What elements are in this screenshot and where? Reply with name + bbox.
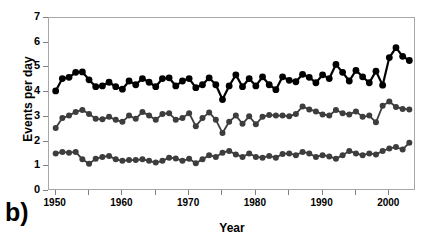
data-point [73,149,79,155]
data-point [246,150,252,156]
data-point [186,156,192,162]
data-point [273,155,279,161]
data-point [79,68,86,75]
data-point [219,96,226,103]
data-point [313,154,319,160]
data-point [212,81,219,88]
data-point [313,108,319,114]
x-tick-mark [221,190,222,195]
data-point [199,81,206,88]
data-point [273,113,279,119]
data-point [326,113,332,119]
chart-figure: Events per day 01234567 1950196019701980… [0,0,426,242]
data-point [226,83,233,90]
data-point [353,108,359,114]
data-point [313,79,320,86]
data-point [99,83,106,90]
data-point [206,109,212,115]
data-point [320,152,326,158]
data-point [72,69,79,76]
data-point [266,153,272,159]
data-point [306,74,313,81]
data-point [119,158,125,164]
data-point [239,83,246,90]
data-point [146,158,152,164]
data-point [300,103,306,109]
data-point [360,114,366,120]
y-tick-label: 3 [10,110,40,121]
data-point [86,161,92,167]
data-point [99,154,105,160]
data-point [113,117,119,123]
data-point [233,113,239,119]
data-point [373,151,379,157]
data-point [380,103,386,109]
y-tick-label: 2 [10,135,40,146]
x-tick-mark [55,190,56,195]
data-point [260,114,266,120]
data-point [366,113,372,119]
data-point [233,151,239,157]
data-point [66,113,72,119]
data-point [339,69,346,76]
data-point [119,86,126,93]
data-point [253,154,259,160]
data-point [219,150,225,156]
data-point [226,148,232,154]
data-point [400,146,406,152]
data-point [159,158,165,164]
data-point [159,111,165,117]
y-tick-mark [43,141,48,142]
data-point [393,44,400,51]
data-point [186,110,192,116]
data-point [206,152,212,158]
data-point [272,86,279,93]
x-tick-label: 1990 [300,198,344,208]
data-point [326,75,333,82]
x-tick-label: 1980 [233,198,277,208]
data-point [126,78,133,85]
data-point [186,75,193,82]
data-point [199,156,205,162]
data-point [213,117,219,123]
data-point [320,111,326,117]
data-point [179,78,186,85]
x-tick-mark [355,190,356,195]
data-point [319,71,326,78]
data-point [379,82,386,89]
data-point [139,75,146,82]
data-point [333,107,339,113]
data-point [166,155,172,161]
data-point [386,54,393,61]
data-point [126,113,132,119]
data-point [253,121,259,127]
data-point [159,75,166,82]
panel-letter: b) [5,200,29,225]
series-upper [52,44,412,103]
data-point [192,84,199,91]
data-point [179,158,185,164]
data-point [399,53,406,60]
data-point [340,152,346,158]
data-point [286,77,293,84]
y-tick-mark [43,116,48,117]
data-point [213,154,219,160]
data-point [280,151,286,157]
data-point [386,145,392,151]
series-middle [53,99,413,136]
data-point [260,155,266,161]
data-point [366,150,372,156]
data-point [166,74,173,81]
data-point [79,156,85,162]
data-point [333,156,339,162]
data-point [306,106,312,112]
data-point [406,106,412,112]
series-lower [53,140,413,167]
data-point [406,140,412,146]
y-tick-mark [43,17,48,18]
data-point [133,116,139,122]
data-point [279,73,286,80]
data-point [106,114,112,120]
data-point [346,78,353,85]
y-tick-mark [43,190,48,191]
